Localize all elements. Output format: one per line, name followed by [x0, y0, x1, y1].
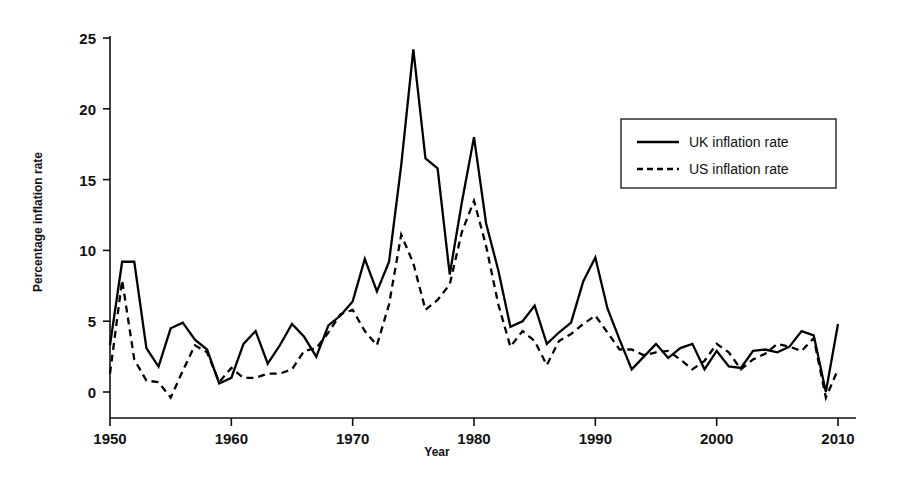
x-tick-label: 2000 — [700, 430, 733, 447]
x-tick-label: 1950 — [93, 430, 126, 447]
y-tick-label: 10 — [79, 242, 96, 259]
x-axis-title: Year — [424, 445, 450, 459]
y-tick-label: 0 — [88, 384, 96, 401]
y-tick-label: 5 — [88, 313, 96, 330]
inflation-line-chart: 0510152025 1950196019701980199020002010 … — [0, 0, 901, 484]
x-axis-tick-labels: 1950196019701980199020002010 — [93, 430, 854, 447]
y-tick-label: 15 — [79, 172, 96, 189]
x-tick-label: 1970 — [336, 430, 369, 447]
y-axis-tick-labels: 0510152025 — [79, 30, 96, 401]
y-axis-title: Percentage inflation rate — [31, 152, 45, 292]
legend: UK inflation rate US inflation rate — [621, 119, 836, 188]
x-tick-label: 2010 — [821, 430, 854, 447]
series-line-uk — [110, 49, 838, 392]
legend-label-us: US inflation rate — [689, 161, 789, 177]
x-tick-label: 1960 — [215, 430, 248, 447]
chart-canvas: 0510152025 1950196019701980199020002010 … — [0, 0, 901, 484]
legend-label-uk: UK inflation rate — [689, 134, 789, 150]
y-axis-ticks — [103, 38, 110, 392]
x-tick-label: 1990 — [579, 430, 612, 447]
y-tick-label: 20 — [79, 101, 96, 118]
legend-box — [621, 119, 836, 188]
x-tick-label: 1980 — [457, 430, 490, 447]
y-tick-label: 25 — [79, 30, 96, 47]
x-axis-ticks — [110, 418, 838, 426]
series-line-us — [110, 201, 838, 398]
